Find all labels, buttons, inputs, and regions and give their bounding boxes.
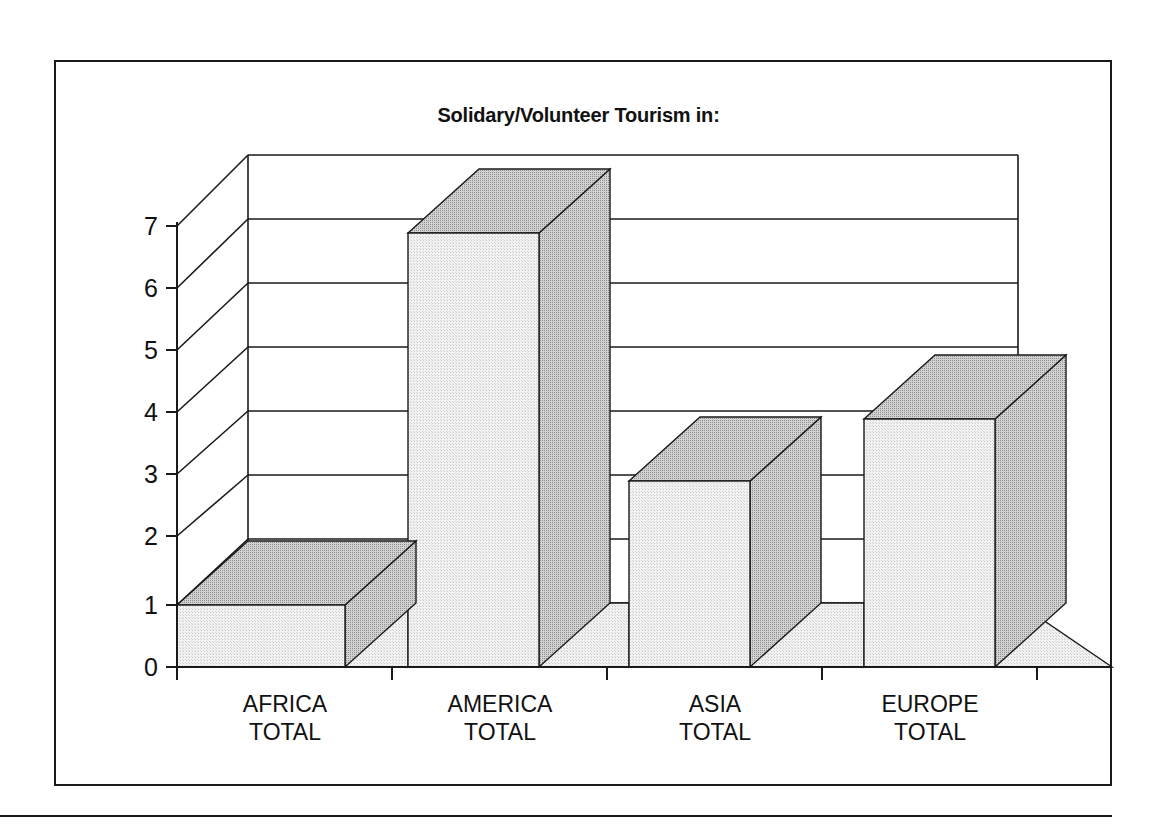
- x-category-label-europe: EUROPE TOTAL: [815, 690, 1045, 746]
- x-category-line-2: TOTAL: [170, 718, 400, 746]
- bar-asia-total[interactable]: [629, 417, 821, 667]
- x-category-line-1: AFRICA: [170, 690, 400, 718]
- x-category-label-america: AMERICA TOTAL: [385, 690, 615, 746]
- footer-rule: [0, 815, 1112, 817]
- bar-europe-total[interactable]: [864, 355, 1066, 667]
- y-axis: [166, 222, 177, 672]
- figure-page: Solidary/Volunteer Tourism in:: [0, 0, 1157, 838]
- x-category-line-1: AMERICA: [385, 690, 615, 718]
- x-category-line-2: TOTAL: [385, 718, 615, 746]
- x-category-line-2: TOTAL: [815, 718, 1045, 746]
- x-category-label-africa: AFRICA TOTAL: [170, 690, 400, 746]
- bar-america-total[interactable]: [408, 169, 610, 667]
- y-tick-label: 3: [118, 462, 158, 487]
- bar-chart-plot-area: 7 6 5 4 3 2 1 0 AFRICA TOTAL AMERICA TOT…: [0, 0, 1157, 838]
- x-axis: [172, 667, 1112, 680]
- x-category-line-1: EUROPE: [815, 690, 1045, 718]
- y-tick-label: 5: [118, 338, 158, 363]
- x-category-line-2: TOTAL: [600, 718, 830, 746]
- y-tick-label: 4: [118, 400, 158, 425]
- y-tick-label: 2: [118, 524, 158, 549]
- y-tick-label: 1: [118, 593, 158, 618]
- y-tick-label: 7: [118, 214, 158, 239]
- x-category-label-asia: ASIA TOTAL: [600, 690, 830, 746]
- y-tick-label: 0: [118, 655, 158, 680]
- y-tick-label: 6: [118, 276, 158, 301]
- x-category-line-1: ASIA: [600, 690, 830, 718]
